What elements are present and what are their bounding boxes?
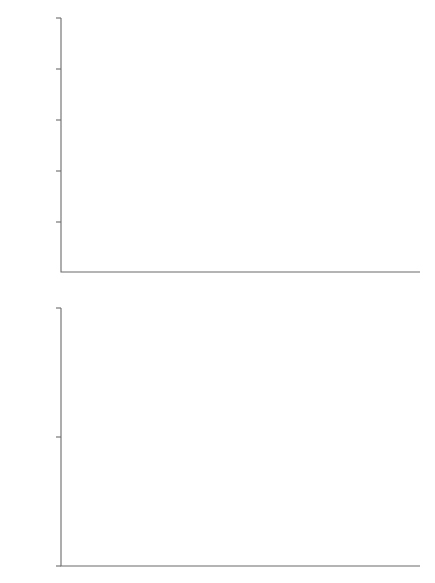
axes-bottom xyxy=(56,308,420,566)
figure-gdp-per-head xyxy=(0,0,435,583)
chart-panel-log xyxy=(0,290,435,583)
chart-canvas-linear xyxy=(0,0,435,283)
chart-panel-linear xyxy=(0,0,435,283)
chart-canvas-log xyxy=(0,290,435,583)
axis-lines-bottom xyxy=(61,308,420,566)
axis-lines-top xyxy=(61,18,420,272)
axes-top xyxy=(56,18,420,272)
